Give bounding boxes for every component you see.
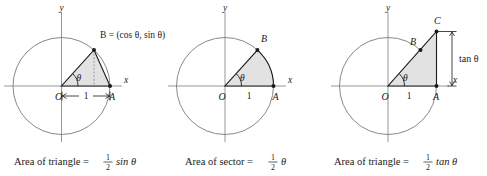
shaded-triangle xyxy=(62,50,111,86)
point-b-coordinate-label: B = (cos θ, sin θ) xyxy=(100,30,165,41)
point-a-dot xyxy=(108,84,112,88)
figure-svg: x y O A 1 θ B = (cos θ, sin θ) Area of t… xyxy=(0,0,487,176)
origin-label: O xyxy=(219,91,226,102)
caption-triangle-tan: Area of triangle = 1 2 tan θ xyxy=(334,153,457,172)
point-c-dot xyxy=(435,30,439,34)
caption-suffix: tan θ xyxy=(436,156,457,167)
y-axis-label: y xyxy=(58,3,64,13)
caption-triangle-sin: Area of triangle = 1 2 sin θ xyxy=(14,153,136,172)
x-axis-label: x xyxy=(287,75,293,85)
theta-label: θ xyxy=(240,73,245,83)
point-a-dot xyxy=(272,84,276,88)
unit-label: 1 xyxy=(247,91,252,101)
x-axis-label: x xyxy=(452,75,458,85)
point-b-dot xyxy=(255,48,259,52)
caption-fraction-denominator: 2 xyxy=(271,163,275,172)
caption-fraction-denominator: 2 xyxy=(426,163,430,172)
point-b-dot xyxy=(419,48,423,52)
unit-label: 1 xyxy=(407,91,412,101)
caption-fraction-numerator: 1 xyxy=(426,153,430,162)
figure-container: x y O A 1 θ B = (cos θ, sin θ) Area of t… xyxy=(0,0,487,176)
origin-label: O xyxy=(382,91,389,102)
point-b-dot xyxy=(92,48,96,52)
caption-suffix: θ xyxy=(281,156,286,167)
panel-sector: x y O A 1 θ B Area of sector = 1 2 θ xyxy=(168,3,293,172)
point-b-label: B xyxy=(261,33,267,44)
point-b-label: B xyxy=(410,36,416,47)
caption-sector: Area of sector = 1 2 θ xyxy=(185,153,286,172)
point-c-label: C xyxy=(434,15,441,26)
y-axis-label: y xyxy=(385,3,391,13)
y-axis-label: y xyxy=(222,3,228,13)
panel-triangle-sin: x y O A 1 θ B = (cos θ, sin θ) Area of t… xyxy=(4,3,165,172)
point-a-label: A xyxy=(432,91,440,102)
caption-prefix: Area of sector = xyxy=(185,156,253,167)
unit-label: 1 xyxy=(84,91,89,101)
caption-fraction-numerator: 1 xyxy=(106,153,110,162)
caption-fraction-denominator: 2 xyxy=(106,163,110,172)
panel-triangle-tan: x y O A 1 θ B C tan θ Area of triangle =… xyxy=(331,3,479,172)
shaded-sector xyxy=(225,50,274,86)
caption-fraction-numerator: 1 xyxy=(271,153,275,162)
caption-prefix: Area of triangle = xyxy=(334,156,409,167)
tan-bracket-label: tan θ xyxy=(459,53,479,64)
caption-prefix: Area of triangle = xyxy=(14,156,89,167)
point-a-label: A xyxy=(108,91,116,102)
x-axis-label: x xyxy=(123,75,129,85)
origin-label: O xyxy=(55,91,62,102)
point-a-label: A xyxy=(272,91,280,102)
caption-suffix: sin θ xyxy=(116,156,136,167)
theta-label: θ xyxy=(403,73,408,83)
theta-label: θ xyxy=(77,73,82,83)
point-a-dot xyxy=(435,84,439,88)
